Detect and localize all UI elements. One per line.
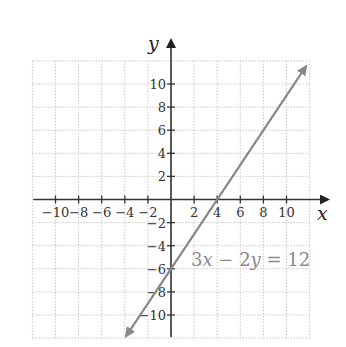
- x-tick-label: 10: [278, 205, 295, 220]
- x-tick-label: −6: [92, 205, 111, 220]
- y-tick-label: 8: [158, 100, 166, 115]
- y-tick-label: 2: [158, 169, 166, 184]
- x-tick-label: −4: [115, 205, 134, 220]
- x-tick-label: 6: [236, 205, 244, 220]
- coordinate-plane: −10−8−6−4−2246810108642−2−4−6−8−10 x y 3…: [0, 0, 346, 347]
- y-tick-label: −4: [147, 239, 166, 254]
- y-tick-label: 10: [149, 77, 166, 92]
- y-tick-label: −6: [147, 262, 166, 277]
- x-axis-label: x: [317, 202, 328, 224]
- equation-label: 3x − 2y = 12: [191, 249, 310, 270]
- x-tick-label: −8: [69, 205, 88, 220]
- y-tick-label: 6: [158, 123, 166, 138]
- y-tick-label: 4: [158, 146, 166, 161]
- y-axis-label: y: [147, 32, 159, 54]
- y-tick-label: −2: [147, 216, 166, 231]
- x-tick-label: 8: [259, 205, 267, 220]
- x-tick-label: 2: [190, 205, 198, 220]
- x-tick-label: −10: [42, 205, 69, 220]
- x-tick-label: 4: [213, 205, 221, 220]
- axes: [33, 40, 328, 337]
